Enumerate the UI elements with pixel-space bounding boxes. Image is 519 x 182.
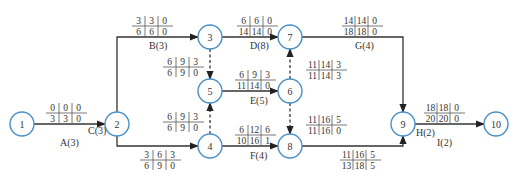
time-value: 5: [370, 161, 375, 171]
time-value: 6: [167, 68, 172, 78]
network-diagram: 0303003636003669306146140061191430610121…: [0, 0, 519, 182]
activity-label: C(3): [88, 125, 106, 137]
time-value: 6: [239, 125, 244, 135]
event-node-6: 6: [278, 79, 302, 103]
time-value: 18: [357, 27, 367, 37]
time-value: 6: [144, 161, 149, 171]
time-value: 11: [308, 60, 317, 70]
time-value: 9: [180, 123, 185, 133]
time-value: 3: [50, 114, 55, 124]
time-value: 6: [149, 27, 154, 37]
time-table: 030300: [46, 103, 87, 124]
node-number: 9: [401, 119, 406, 130]
time-value: 6: [265, 125, 270, 135]
node-number: 8: [288, 141, 293, 152]
activity-label: A(3): [60, 137, 79, 149]
time-value: 16: [321, 126, 331, 136]
time-value: 16: [321, 115, 331, 125]
activity-label: H(2): [416, 127, 435, 139]
node-number: 3: [208, 32, 213, 43]
time-value: 0: [63, 103, 68, 113]
time-value: 14: [239, 27, 249, 37]
time-value: 6: [157, 150, 162, 160]
time-value: 1: [265, 136, 270, 146]
activity-label: D(8): [250, 40, 269, 52]
time-value: 0: [162, 27, 167, 37]
event-node-4: 4: [198, 134, 222, 158]
time-value: 3: [336, 60, 341, 70]
time-value: 3: [170, 150, 175, 160]
event-node-10: 10: [484, 112, 508, 136]
event-node-8: 8: [278, 134, 302, 158]
time-table: 1111161650: [306, 115, 347, 136]
time-table: 1820182000: [424, 103, 465, 124]
time-value: 3: [336, 71, 341, 81]
node-number: 2: [115, 119, 120, 130]
time-value: 18: [355, 161, 365, 171]
time-value: 0: [50, 103, 55, 113]
event-node-2: 2: [105, 112, 129, 136]
time-value: 3: [136, 16, 141, 26]
time-table: 363600: [132, 16, 173, 37]
time-value: 9: [180, 57, 185, 67]
time-value: 0: [336, 126, 341, 136]
event-node-5: 5: [198, 79, 222, 103]
time-value: 5: [336, 115, 341, 125]
time-value: 3: [193, 57, 198, 67]
event-node-1: 1: [10, 112, 34, 136]
time-value: 6: [241, 16, 246, 26]
time-table: 366930: [140, 150, 181, 171]
time-value: 3: [63, 114, 68, 124]
activity-arrow-c: [117, 136, 198, 146]
time-value: 6: [167, 123, 172, 133]
node-number: 6: [288, 86, 293, 97]
time-value: 14: [344, 16, 354, 26]
time-value: 11: [342, 150, 351, 160]
time-value: 18: [426, 103, 436, 113]
time-value: 0: [454, 103, 459, 113]
time-value: 0: [372, 16, 377, 26]
time-value: 11: [308, 126, 317, 136]
time-table: 61461400: [237, 16, 278, 37]
time-value: 9: [252, 70, 257, 80]
time-value: 0: [193, 123, 198, 133]
time-table: 1113161855: [340, 150, 381, 171]
activity-label: F(4): [250, 150, 267, 162]
time-value: 0: [267, 27, 272, 37]
time-value: 0: [170, 161, 175, 171]
node-number: 5: [208, 86, 213, 97]
time-value: 9: [180, 68, 185, 78]
time-value: 11: [237, 81, 246, 91]
event-node-7: 7: [278, 25, 302, 49]
node-number: 7: [288, 32, 293, 43]
activity-label: G(4): [355, 40, 374, 52]
time-value: 3: [149, 16, 154, 26]
time-value: 11: [308, 71, 317, 81]
time-table: 1418141800: [342, 16, 383, 37]
time-value: 3: [193, 112, 198, 122]
time-value: 18: [344, 27, 354, 37]
time-value: 6: [239, 70, 244, 80]
time-value: 14: [321, 60, 331, 70]
activity-label: E(5): [250, 95, 268, 107]
time-value: 0: [76, 103, 81, 113]
time-value: 6: [167, 112, 172, 122]
time-value: 3: [144, 150, 149, 160]
time-value: 18: [439, 103, 449, 113]
time-value: 0: [372, 27, 377, 37]
time-value: 11: [308, 115, 317, 125]
time-table: 610121661: [235, 125, 276, 146]
time-table: 669930: [163, 57, 204, 78]
time-value: 14: [321, 71, 331, 81]
time-value: 9: [180, 112, 185, 122]
time-value: 6: [254, 16, 259, 26]
time-value: 0: [454, 114, 459, 124]
node-number: 10: [491, 119, 501, 130]
time-value: 0: [76, 114, 81, 124]
time-value: 6: [136, 27, 141, 37]
time-value: 14: [252, 27, 262, 37]
time-value: 6: [167, 57, 172, 67]
time-value: 20: [439, 114, 449, 124]
time-value: 0: [162, 16, 167, 26]
time-value: 10: [237, 136, 247, 146]
